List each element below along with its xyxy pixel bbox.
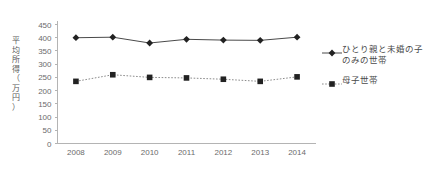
y-axis-tick-group: 450400350300250200150100500: [38, 21, 57, 149]
data-point-marker-square: [147, 75, 153, 81]
y-axis-tick-label: 300: [38, 60, 52, 69]
data-point-marker-diamond: [109, 34, 116, 41]
x-axis-tick-group: 2008200920102011201220132014: [67, 148, 306, 157]
y-axis-tick-label: 400: [38, 34, 52, 43]
x-axis-tick-label: 2012: [214, 148, 232, 157]
data-point-marker-square: [73, 79, 79, 85]
legend-marker-square-icon: [322, 76, 342, 88]
data-point-marker-square: [257, 79, 263, 85]
chart-container: 平均所得（万円） 450400350300250200150100500 200…: [0, 0, 430, 174]
data-point-marker-diamond: [257, 37, 264, 44]
data-point-marker-diamond: [146, 40, 153, 47]
x-axis-tick-label: 2011: [178, 148, 196, 157]
data-point-marker-diamond: [329, 50, 336, 57]
data-point-marker-diamond: [294, 34, 301, 41]
x-axis-tick-label: 2008: [67, 148, 85, 157]
y-axis-tick-label: 150: [38, 100, 52, 109]
data-point-marker-square: [329, 81, 335, 87]
data-point-marker-square: [294, 74, 300, 80]
x-axis-tick-label: 2014: [288, 148, 306, 157]
data-point-marker-diamond: [73, 34, 80, 41]
y-axis-tick-label: 350: [38, 47, 52, 56]
y-axis-tick-label: 100: [38, 113, 52, 122]
legend-entry[interactable]: ひとり親と未婚の子のみの世帯: [322, 44, 428, 66]
y-axis-tick-label: 50: [43, 126, 52, 135]
y-axis-tick-label: 200: [38, 87, 52, 96]
y-axis-tick-label: 450: [38, 21, 52, 30]
data-point-marker-square: [221, 76, 227, 82]
legend-label: ひとり親と未婚の子のみの世帯: [342, 44, 428, 66]
x-axis-tick-label: 2010: [141, 148, 159, 157]
data-point-marker-diamond: [183, 36, 190, 43]
x-axis-tick-label: 2013: [251, 148, 269, 157]
data-point-marker-diamond: [220, 37, 227, 44]
legend-entry[interactable]: 母子世帯: [322, 75, 428, 88]
legend-label: 母子世帯: [342, 75, 378, 86]
data-series-group: [73, 34, 301, 84]
y-axis-tick-label: 250: [38, 73, 52, 82]
legend-marker-diamond-icon: [322, 45, 342, 57]
data-point-marker-square: [184, 75, 190, 81]
y-axis-tick-label: 0: [47, 140, 52, 149]
x-axis-tick-label: 2009: [104, 148, 122, 157]
chart-legend: ひとり親と未婚の子のみの世帯母子世帯: [322, 44, 428, 97]
data-point-marker-square: [110, 72, 116, 78]
